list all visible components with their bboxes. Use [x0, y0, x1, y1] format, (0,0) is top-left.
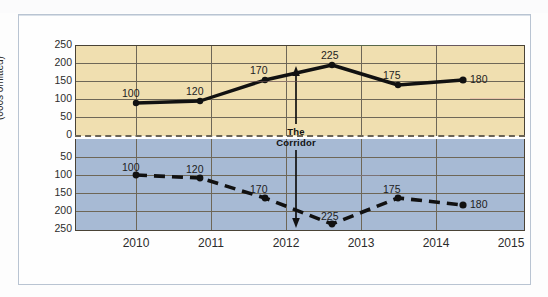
corridor-label-line1: The	[252, 126, 340, 137]
scan-fringe-pink	[470, 98, 525, 99]
upper-point-label-2011: 120	[186, 85, 204, 97]
scan-fringe-green	[300, 45, 420, 46]
lower-series-line	[136, 175, 463, 224]
scan-fringe-violet	[300, 175, 380, 176]
lower-point-label-2013: 225	[321, 210, 339, 222]
corridor-label-line2: Corridor	[252, 137, 340, 148]
upper-point-label-2010: 100	[122, 87, 140, 99]
chart-page: (000s omitted) 250 200 150 100 50 0 50 1…	[0, 0, 548, 297]
scan-fringe-purple	[420, 45, 510, 46]
upper-point-label-2012: 170	[250, 64, 268, 76]
upper-point-label-2013: 225	[321, 49, 339, 61]
upper-series-line	[136, 65, 463, 103]
lower-point-label-2014: 175	[383, 183, 401, 195]
scan-fringe-pink-2	[240, 81, 300, 82]
lower-point-label-2010: 100	[122, 161, 140, 173]
upper-point-label-2014: 175	[383, 69, 401, 81]
upper-point-label-2015: 180	[470, 73, 488, 85]
lower-point-label-2012: 170	[250, 183, 268, 195]
lower-point-label-2015: 180	[470, 198, 488, 210]
lower-point-label-2011: 120	[186, 163, 204, 175]
corridor-annotation-label: The Corridor	[252, 126, 340, 148]
